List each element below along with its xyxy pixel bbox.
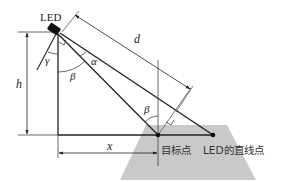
gamma-arc — [48, 52, 58, 54]
d-label: d — [134, 33, 140, 45]
led-body — [47, 22, 61, 35]
x-label: x — [107, 140, 112, 152]
beta-bottom-label: β — [144, 104, 149, 115]
led-direct-point-label: LED的直线点 — [203, 145, 264, 156]
h-label: h — [16, 78, 22, 90]
alpha-arc — [80, 52, 86, 56]
beta-bottom-arc — [145, 116, 158, 122]
alpha-label: α — [91, 56, 97, 67]
led-direct-point-dot — [211, 133, 216, 138]
d-dimension-arrow — [75, 15, 190, 89]
d-extension-bottom — [176, 86, 193, 112]
right-angle-mark-target — [166, 120, 174, 125]
gamma-label: γ — [45, 55, 49, 66]
led-to-direct-point-line — [60, 33, 213, 135]
d-extension-top — [62, 11, 79, 32]
led-to-target-line — [58, 34, 158, 135]
led-label: LED — [40, 12, 61, 23]
target-point-label: 目标点 — [161, 145, 191, 156]
target-point-dot — [156, 133, 161, 138]
beta-top-label: β — [70, 71, 75, 82]
diagram: LED d h x α β γ β 目标点 LED的直线点 — [0, 0, 281, 182]
